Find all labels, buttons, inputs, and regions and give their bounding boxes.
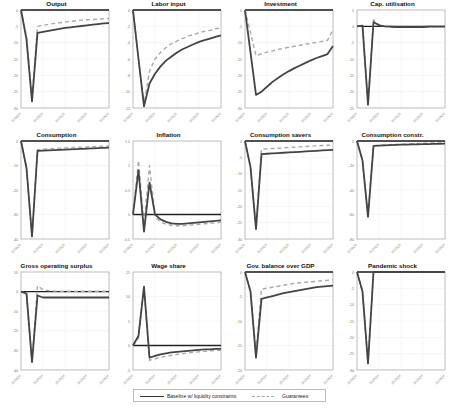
x-tick-label: 2021Q4 — [54, 243, 65, 254]
y-tick-label: -10 — [237, 172, 242, 176]
y-tick-label: -60 — [349, 213, 354, 217]
y-tick-label: 1 — [128, 164, 130, 168]
x-tick-label: 2023Q4 — [434, 243, 445, 254]
x-tick-label: 2019Q4 — [122, 243, 133, 254]
y-tick-label: -25 — [349, 352, 354, 356]
y-tick-label: -20 — [13, 74, 18, 78]
y-tick-label: 0 — [240, 271, 242, 275]
y-tick-label: -15 — [237, 189, 242, 193]
y-tick-label: -10 — [237, 41, 242, 45]
x-tick-label: 2020Q4 — [144, 243, 155, 254]
x-tick-label: 2022Q4 — [300, 112, 311, 123]
panel-plot: 100-10-20-30-402019Q42020Q42021Q42022Q42… — [0, 262, 113, 390]
y-tick-label: -15 — [13, 58, 18, 62]
chart-panel-gross-operating-surplus: Gross operating surplus100-10-20-30-4020… — [0, 262, 113, 390]
x-tick-label: 2023Q4 — [98, 374, 109, 385]
x-tick-label: 2019Q4 — [346, 112, 357, 123]
y-tick-label: -20 — [237, 369, 242, 373]
chart-panel-pandemic-shock: Pandemic shock0-5-10-15-20-25-302019Q420… — [336, 262, 449, 390]
x-tick-label: 2019Q4 — [10, 112, 21, 123]
x-tick-label: 2022Q4 — [188, 374, 199, 385]
legend-swatch-solid — [140, 396, 164, 397]
y-tick-label: 0 — [352, 271, 354, 275]
y-tick-label: -8 — [127, 74, 130, 78]
panel-plot: 0-5-10-15-20-25-302019Q42020Q42021Q42022… — [224, 131, 337, 259]
y-tick-label: -12 — [125, 107, 130, 111]
y-tick-label: -30 — [237, 107, 242, 111]
y-tick-label: -20 — [349, 90, 354, 94]
x-tick-label: 2019Q4 — [234, 374, 245, 385]
y-tick-label: -30 — [13, 213, 18, 217]
y-tick-label: 15 — [126, 271, 130, 275]
y-tick-label: -5 — [239, 295, 242, 299]
x-tick-label: 2022Q4 — [188, 243, 199, 254]
y-tick-label: -2 — [127, 25, 130, 29]
x-tick-label: 2022Q4 — [412, 112, 423, 123]
y-tick-label: -40 — [13, 238, 18, 242]
x-tick-label: 2022Q4 — [76, 374, 87, 385]
x-tick-label: 2019Q4 — [122, 374, 133, 385]
y-tick-label: -10 — [13, 310, 18, 314]
x-tick-label: 2019Q4 — [122, 112, 133, 123]
y-tick-label: -10 — [125, 90, 130, 94]
x-tick-label: 2020Q4 — [368, 374, 379, 385]
y-tick-label: -15 — [237, 58, 242, 62]
y-tick-label: -15 — [349, 74, 354, 78]
x-tick-label: 2022Q4 — [76, 243, 87, 254]
y-tick-label: -5 — [239, 156, 242, 160]
y-tick-label: -80 — [349, 238, 354, 242]
y-tick-label: -30 — [13, 349, 18, 353]
y-tick-label: -25 — [237, 221, 242, 225]
y-tick-label: -5 — [127, 369, 130, 373]
y-tick-label: 0 — [16, 140, 18, 144]
y-tick-label: -10 — [349, 303, 354, 307]
y-tick-label: -25 — [13, 90, 18, 94]
y-tick-label: -25 — [237, 90, 242, 94]
y-tick-label: -40 — [349, 189, 354, 193]
y-tick-label: 0 — [352, 140, 354, 144]
chart-panel-investment: Investment0-5-10-15-20-25-302019Q42020Q4… — [224, 0, 337, 128]
x-tick-label: 2022Q4 — [412, 243, 423, 254]
y-tick-label: 10 — [126, 295, 130, 299]
x-tick-label: 2022Q4 — [76, 112, 87, 123]
y-tick-label: -30 — [349, 369, 354, 373]
chart-legend: Baseline w/ liquidity constraints Guaran… — [133, 389, 326, 402]
y-tick-label: -20 — [349, 164, 354, 168]
x-tick-label: 2023Q4 — [322, 374, 333, 385]
x-tick-label: 2020Q4 — [144, 374, 155, 385]
x-tick-label: 2022Q4 — [412, 374, 423, 385]
panel-plot: 151050-52019Q42020Q42021Q42022Q42023Q4 — [112, 262, 225, 390]
x-tick-label: 2021Q4 — [278, 243, 289, 254]
y-tick-label: -20 — [237, 205, 242, 209]
x-tick-label: 2019Q4 — [234, 243, 245, 254]
y-tick-label: -10 — [13, 164, 18, 168]
x-tick-label: 2021Q4 — [166, 374, 177, 385]
y-tick-label: 0.5 — [125, 189, 130, 193]
x-tick-label: 2023Q4 — [210, 374, 221, 385]
panel-plot: 0-5-10-15-20-25-302019Q42020Q42021Q42022… — [336, 262, 449, 390]
x-tick-label: 2020Q4 — [256, 243, 267, 254]
y-tick-label: 0 — [128, 344, 130, 348]
y-tick-label: -30 — [13, 107, 18, 111]
x-tick-label: 2023Q4 — [98, 243, 109, 254]
chart-panel-inflation: Inflation1.510.50-0.52019Q42020Q42021Q42… — [112, 131, 225, 259]
y-tick-label: -20 — [349, 336, 354, 340]
y-tick-label: -0.5 — [124, 238, 130, 242]
panel-plot: 0-10-20-30-402019Q42020Q42021Q42022Q4202… — [0, 131, 113, 259]
y-tick-label: -5 — [239, 25, 242, 29]
panel-plot: 0-5-10-15-20-25-302019Q42020Q42021Q42022… — [224, 0, 337, 128]
x-tick-label: 2019Q4 — [346, 243, 357, 254]
x-tick-label: 2021Q4 — [54, 112, 65, 123]
x-tick-label: 2020Q4 — [144, 112, 155, 123]
y-tick-label: 0 — [352, 25, 354, 29]
x-tick-label: 2020Q4 — [32, 112, 43, 123]
y-tick-label: -20 — [13, 329, 18, 333]
x-tick-label: 2021Q4 — [390, 374, 401, 385]
x-tick-label: 2023Q4 — [322, 112, 333, 123]
x-tick-label: 2019Q4 — [10, 374, 21, 385]
x-tick-label: 2021Q4 — [278, 112, 289, 123]
y-tick-label: -20 — [237, 74, 242, 78]
chart-panel-consumption-constr: Consumption constr.0-20-40-60-802019Q420… — [336, 131, 449, 259]
x-tick-label: 2023Q4 — [210, 112, 221, 123]
y-tick-label: -30 — [237, 238, 242, 242]
